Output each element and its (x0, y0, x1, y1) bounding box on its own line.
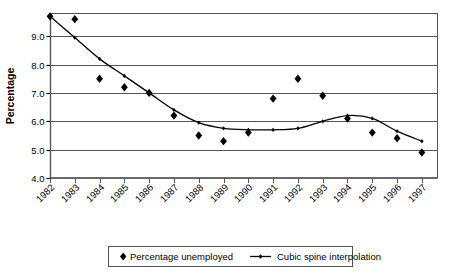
y-tick-label: 4.0 (31, 173, 44, 184)
y-tick-label: 7.0 (31, 88, 44, 99)
y-axis-title: Percentage (4, 68, 16, 125)
y-tick-label: 9.0 (31, 31, 44, 42)
y-tick-label: 6.0 (31, 116, 44, 127)
chart-legend: Percentage unemployed Cubic spine interp… (109, 247, 382, 267)
y-tick-label: 5.0 (31, 145, 44, 156)
legend-label-percentage-unemployed: Percentage unemployed (130, 251, 233, 262)
chart-background (0, 0, 450, 276)
y-tick-label: 8.0 (31, 60, 44, 71)
chart-figure: 4.05.06.07.08.09.0 198219831984198519861… (0, 0, 450, 276)
legend-label-cubic-spline-interpolation: Cubic spine interpolation (277, 251, 381, 262)
chart-svg: 4.05.06.07.08.09.0 198219831984198519861… (0, 0, 450, 276)
